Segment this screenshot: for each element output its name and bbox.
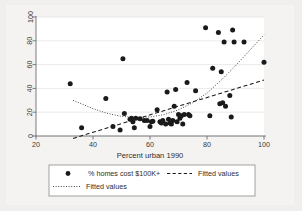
scatter-point	[222, 39, 227, 44]
scatter-point	[132, 125, 137, 130]
scatter-point	[193, 88, 198, 93]
legend-label-dashed: Fitted values	[198, 169, 239, 178]
scatter-point	[150, 119, 155, 124]
legend-marker-scatter-icon	[66, 171, 71, 176]
scatter-point	[170, 118, 175, 123]
scatter-point	[118, 128, 123, 133]
scatter-point	[187, 113, 192, 118]
scatter-point	[148, 124, 153, 129]
scatter-point	[138, 116, 143, 121]
chart-figure: 020406080100 20406080100 Percent urban 1…	[0, 0, 302, 211]
scatter-point	[79, 125, 84, 130]
scatter-point	[219, 69, 224, 74]
x-tick-label: 60	[146, 140, 154, 149]
scatter-point	[120, 56, 125, 61]
scatter-point	[145, 118, 150, 123]
scatter-plot-svg: 020406080100 20406080100 Percent urban 1…	[0, 0, 302, 211]
legend-label-dotted: Fitted values	[86, 182, 127, 191]
legend-label-scatter: % homes cost $100K+	[88, 169, 160, 178]
x-tick-label: 20	[32, 140, 40, 149]
scatter-point	[133, 116, 138, 121]
scatter-point	[172, 104, 177, 109]
scatter-point	[185, 80, 190, 85]
scatter-point	[165, 89, 170, 94]
scatter-point	[232, 39, 237, 44]
scatter-point	[182, 112, 187, 117]
scatter-point	[223, 104, 228, 109]
scatter-point	[242, 39, 247, 44]
scatter-point	[173, 87, 178, 92]
scatter-point	[155, 107, 160, 112]
y-tick-label: 20	[26, 108, 35, 116]
x-tick-label: 40	[89, 140, 97, 149]
scatter-point	[207, 113, 212, 118]
x-axis-title: Percent urban 1990	[117, 151, 184, 160]
scatter-point	[163, 122, 168, 127]
legend: % homes cost $100K+ Fitted values Fitted…	[49, 165, 255, 196]
y-tick-label: 80	[26, 37, 35, 45]
scatter-point	[203, 25, 208, 30]
scatter-point	[68, 81, 73, 86]
scatter-point	[180, 122, 185, 127]
scatter-point	[262, 60, 267, 65]
y-tick-label: 40	[26, 84, 35, 92]
scatter-point	[103, 96, 108, 101]
scatter-point	[210, 66, 215, 71]
x-tick-label: 80	[203, 140, 211, 149]
scatter-point	[230, 28, 235, 33]
y-tick-label: 60	[26, 61, 35, 69]
x-tick-label: 100	[258, 140, 270, 149]
scatter-point	[122, 111, 127, 116]
y-tick-label: 100	[26, 11, 35, 23]
scatter-point	[216, 30, 221, 35]
scatter-point	[110, 124, 115, 129]
scatter-point	[229, 114, 234, 119]
scatter-point	[227, 93, 232, 98]
y-tick-label: 0	[26, 134, 35, 138]
